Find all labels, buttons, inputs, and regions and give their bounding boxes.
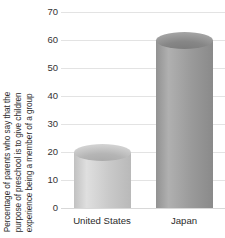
bar-japan bbox=[156, 40, 213, 208]
y-tick-label-40: 40 bbox=[38, 91, 58, 101]
x-category-label-japan: Japan bbox=[134, 216, 225, 226]
y-tick-label-60: 60 bbox=[38, 35, 58, 45]
y-tick-label-70: 70 bbox=[38, 7, 58, 17]
x-axis-category-labels: United StatesJapan bbox=[61, 212, 225, 238]
bar-top-ellipse bbox=[156, 32, 213, 49]
plot-area bbox=[61, 12, 225, 208]
gridline-0 bbox=[61, 208, 225, 209]
y-tick-label-50: 50 bbox=[38, 63, 58, 73]
bar-united-states bbox=[74, 152, 131, 208]
y-axis-title: Percentage of parents who say that the p… bbox=[0, 0, 38, 238]
y-tick-label-20: 20 bbox=[38, 147, 58, 157]
y-tick-label-30: 30 bbox=[38, 119, 58, 129]
y-axis-title-line-1: Percentage of parents who say that the bbox=[3, 91, 11, 232]
gridline-70 bbox=[61, 12, 225, 13]
y-tick-label-10: 10 bbox=[38, 175, 58, 185]
bar-chart: Percentage of parents who say that the p… bbox=[0, 0, 225, 238]
bar-top-ellipse bbox=[74, 144, 131, 161]
y-tick-label-0: 0 bbox=[38, 203, 58, 213]
y-axis-title-line-2: purpose of preschool is to give children bbox=[14, 92, 22, 232]
y-axis-tick-labels: 010203040506070 bbox=[34, 12, 58, 208]
y-axis-title-line-3: experience being a member of a group bbox=[25, 93, 33, 232]
bar-body bbox=[156, 40, 213, 208]
